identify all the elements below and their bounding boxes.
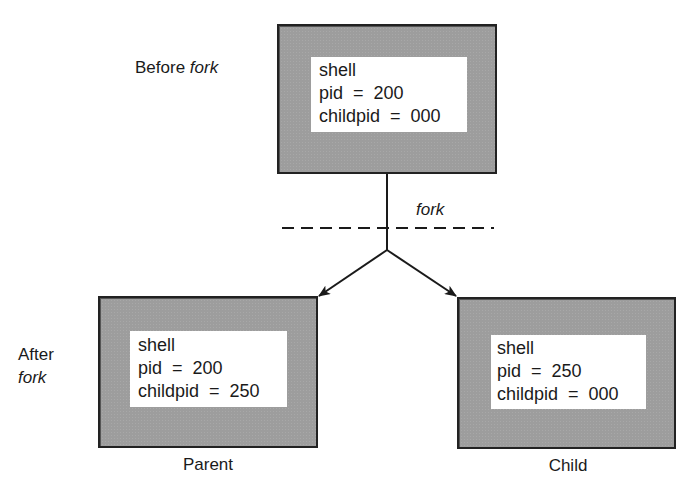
process-name: shell xyxy=(138,334,287,357)
arrow-to-parent xyxy=(319,250,387,296)
child-caption: Child xyxy=(518,456,618,476)
pid-value: pid = 200 xyxy=(319,82,467,105)
process-info-before: shell pid = 200 childpid = 000 xyxy=(311,57,467,132)
arrow-to-child xyxy=(387,250,456,296)
after-fork-label: After fork xyxy=(18,343,54,389)
before-text: Before xyxy=(135,58,190,77)
process-box-child: shell pid = 250 childpid = 000 xyxy=(457,297,676,449)
childpid-value: childpid = 250 xyxy=(138,380,287,403)
pid-value: pid = 200 xyxy=(138,357,287,380)
pid-value: pid = 250 xyxy=(497,360,646,383)
fork-edge-label: fork xyxy=(416,200,444,220)
process-box-parent: shell pid = 200 childpid = 250 xyxy=(98,296,318,448)
process-name: shell xyxy=(497,337,646,360)
after-text: After xyxy=(18,343,54,366)
after-fork-italic: fork xyxy=(18,366,54,389)
process-info-child: shell pid = 250 childpid = 000 xyxy=(491,335,646,409)
before-fork-italic: fork xyxy=(190,58,218,77)
process-info-parent: shell pid = 200 childpid = 250 xyxy=(130,331,287,407)
fork-diagram: Before fork shell pid = 200 childpid = 0… xyxy=(0,0,688,488)
parent-caption: Parent xyxy=(158,455,258,475)
process-box-before-fork: shell pid = 200 childpid = 000 xyxy=(277,24,497,174)
childpid-value: childpid = 000 xyxy=(319,105,467,128)
childpid-value: childpid = 000 xyxy=(497,383,646,406)
process-name: shell xyxy=(319,59,467,82)
before-fork-label: Before fork xyxy=(135,58,218,78)
